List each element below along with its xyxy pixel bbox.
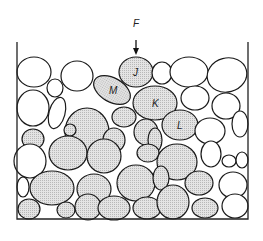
particle (137, 144, 159, 162)
particle (17, 57, 51, 87)
particle (222, 155, 236, 167)
force-arrow: F (133, 18, 140, 55)
label-J: J (132, 67, 139, 78)
particle (30, 171, 74, 205)
particle (195, 118, 225, 144)
particle (157, 185, 189, 219)
particle (232, 111, 248, 137)
particle (17, 90, 49, 126)
particle (87, 139, 121, 173)
particle (201, 141, 221, 167)
packing-diagram: F MJKL (0, 0, 263, 241)
particle (203, 53, 250, 96)
particle (47, 79, 63, 97)
label-M: M (109, 85, 118, 96)
particles-group (14, 53, 251, 220)
particle (64, 124, 76, 136)
particle (75, 194, 101, 220)
arrow-head-icon (133, 48, 139, 55)
particle (236, 152, 248, 168)
particle (152, 62, 172, 84)
particle (98, 196, 130, 220)
label-L: L (177, 120, 183, 131)
particle (117, 165, 155, 201)
particle (222, 194, 248, 218)
particle (17, 177, 29, 197)
particle (112, 107, 136, 127)
force-label: F (133, 18, 140, 29)
particle (181, 86, 209, 110)
particle (170, 57, 208, 87)
particle (57, 202, 75, 218)
particle (192, 198, 218, 218)
particle (49, 136, 87, 170)
particle (18, 199, 40, 219)
particle (61, 61, 93, 91)
particle (185, 171, 213, 195)
